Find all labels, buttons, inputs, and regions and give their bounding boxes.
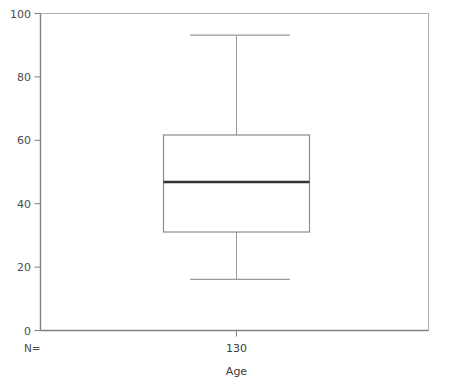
iqr-box [164, 135, 310, 232]
y-tick-label-60: 60 [17, 134, 31, 147]
y-tick-label-80: 80 [17, 71, 31, 84]
y-tick-label-20: 20 [17, 261, 31, 274]
boxplot-chart: 0 20 40 60 80 100 N= 130 Age [0, 0, 451, 385]
y-axis-ticks [35, 14, 41, 331]
y-tick-label-0: 0 [24, 325, 31, 338]
y-tick-label-40: 40 [17, 198, 31, 211]
category-count-age: 130 [226, 342, 247, 355]
x-axis-title: Age [226, 365, 248, 378]
y-tick-label-100: 100 [10, 8, 31, 21]
chart-canvas: 0 20 40 60 80 100 N= 130 Age [0, 0, 451, 385]
n-prefix-label: N= [24, 342, 41, 354]
